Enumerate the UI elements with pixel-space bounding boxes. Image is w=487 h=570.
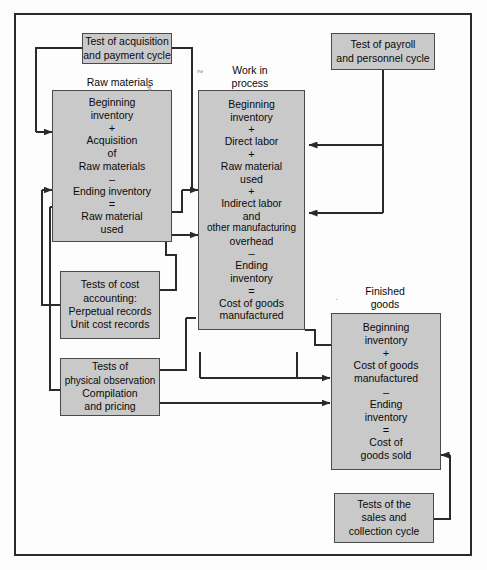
box-wip-line-16: Cost of goods — [219, 297, 284, 310]
box-costacct-line-3: Unit cost records — [71, 318, 150, 331]
wire-rawmaterials-out — [172, 190, 182, 212]
box-test-payroll-personnel-cycle[interactable]: Test of payroll and personnel cycle — [331, 33, 435, 70]
box-fg-line-8: = — [383, 424, 389, 436]
caption-raw-materials: Raw materials — [60, 76, 180, 89]
box-fg-line-0: Beginning — [363, 321, 410, 334]
box-tests-physical-observation[interactable]: Tests of physical observation Compilatio… — [60, 358, 160, 416]
box-raw-materials[interactable]: Beginning inventory + Acquisition of Raw… — [52, 90, 172, 242]
box-payroll-line-1: and personnel cycle — [336, 52, 429, 65]
box-wip-line-11: overhead — [230, 235, 274, 248]
scan-mark-2: ∾ — [197, 67, 204, 76]
box-physobs-line-2: Compilation — [82, 387, 137, 400]
caption-finished-goods: Finished goods — [335, 285, 435, 310]
box-fg-line-10: goods sold — [361, 449, 412, 462]
box-rm-line-8: = — [109, 198, 115, 210]
box-rm-line-6: – — [109, 173, 115, 185]
box-acquisition-line-1: and payment cycle — [83, 49, 171, 62]
wire-wip-to-finishedgoods-step — [305, 330, 331, 345]
box-wip-line-14: inventory — [230, 272, 273, 285]
caption-wip-line2: process — [232, 77, 269, 89]
box-wip-line-0: Beginning — [228, 98, 275, 111]
box-fg-line-4: manufactured — [354, 372, 418, 385]
box-physobs-line-0: Tests of — [92, 360, 128, 373]
box-costacct-line-2: Perpetual records — [69, 305, 152, 318]
box-rm-line-7: Ending inventory — [73, 185, 151, 198]
box-tests-sales-collection-cycle[interactable]: Tests of the sales and collection cycle — [334, 493, 434, 543]
box-tests-cost-accounting[interactable]: Tests of cost accounting: Perpetual reco… — [60, 271, 160, 339]
box-fg-line-2: + — [383, 347, 389, 359]
box-wip-line-1: inventory — [230, 111, 273, 124]
box-wip-line-10: other manufacturing — [207, 222, 296, 235]
box-fg-line-9: Cost of — [369, 436, 402, 449]
box-sales-line-0: Tests of the — [357, 498, 411, 511]
box-wip-line-5: Raw material — [221, 160, 282, 173]
box-work-in-process[interactable]: Beginning inventory + Direct labor + Raw… — [198, 90, 305, 330]
diagram-canvas: Raw materials Work in process Finished g… — [0, 0, 487, 570]
box-wip-line-8: Indirect labor — [221, 197, 282, 210]
box-sales-line-1: sales and — [362, 511, 407, 524]
box-wip-line-4: + — [248, 148, 254, 160]
box-fg-line-1: inventory — [365, 334, 408, 347]
box-fg-line-6: Ending — [370, 398, 403, 411]
wire-acquisition-right-down — [171, 48, 192, 190]
box-wip-line-12: – — [248, 247, 254, 259]
scan-mark-3: ⋅ — [335, 295, 338, 304]
box-rm-line-9: Raw material — [81, 210, 142, 223]
box-wip-line-6: used — [240, 173, 263, 186]
box-wip-line-15: = — [248, 285, 254, 297]
box-sales-line-2: collection cycle — [349, 525, 420, 538]
box-rm-line-10: used — [101, 223, 124, 236]
box-wip-line-2: + — [248, 123, 254, 135]
box-fg-line-5: – — [383, 386, 389, 398]
caption-wip-line1: Work in — [232, 64, 267, 76]
caption-work-in-process: Work in process — [200, 64, 300, 89]
wire-physobs-right-up — [160, 318, 186, 370]
box-wip-line-7: + — [248, 185, 254, 197]
box-rm-line-0: Beginning — [89, 96, 136, 109]
box-costacct-line-1: accounting: — [83, 292, 137, 305]
box-wip-line-9: and — [243, 210, 261, 223]
wire-costacct-right-up — [160, 235, 176, 290]
box-physobs-line-1: physical observation — [65, 374, 156, 387]
box-rm-line-4: of — [108, 147, 117, 160]
box-payroll-line-0: Test of payroll — [351, 38, 416, 51]
box-wip-line-17: manufactured — [219, 309, 283, 322]
box-test-acquisition-payment-cycle[interactable]: Test of acquisition and payment cycle — [82, 33, 172, 64]
box-finished-goods[interactable]: Beginning inventory + Cost of goods manu… — [331, 313, 441, 470]
caption-fg-line1: Finished — [365, 285, 405, 297]
box-acquisition-line-0: Test of acquisition — [85, 35, 168, 48]
box-rm-line-2: + — [109, 122, 115, 134]
box-rm-line-3: Acquisition — [87, 134, 138, 147]
box-wip-line-13: Ending — [235, 259, 268, 272]
scan-mark-1: ↯ — [146, 84, 153, 93]
box-costacct-line-0: Tests of cost — [81, 278, 139, 291]
box-rm-line-1: inventory — [91, 109, 134, 122]
box-rm-line-5: Raw materials — [79, 160, 146, 173]
box-fg-line-7: inventory — [365, 411, 408, 424]
box-physobs-line-3: and pricing — [84, 400, 135, 413]
box-wip-line-3: Direct labor — [225, 135, 279, 148]
caption-fg-line2: goods — [371, 298, 400, 310]
box-fg-line-3: Cost of goods — [354, 359, 419, 372]
